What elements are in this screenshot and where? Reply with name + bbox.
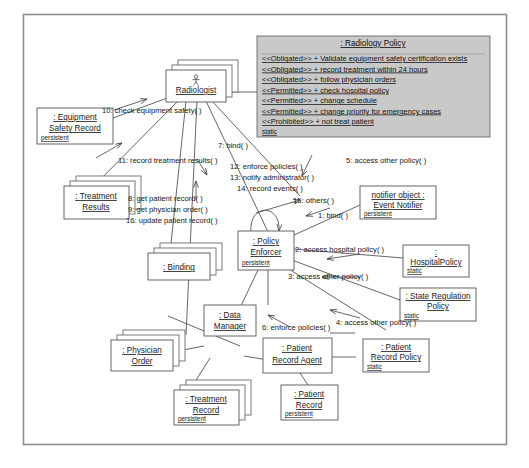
- policy-rule-6: <<Prohibited>> + not treat patient: [262, 117, 375, 126]
- policy-rule-0: <<Obligated>> + Validate equipment safet…: [262, 54, 467, 63]
- message-13: 13: notify administrator( ): [230, 173, 314, 182]
- event-notifier-line2: Event Notifier: [373, 201, 422, 210]
- treatment-record-line2: Record: [193, 406, 220, 415]
- object-state-regulation-policy[interactable]: : State Regulation Policy static: [400, 288, 476, 321]
- policy-rule-2: <<Obligated>> + follow physician orders: [262, 75, 396, 84]
- object-physician-order[interactable]: : Physician Order: [111, 330, 185, 371]
- physician-order-line2: Order: [132, 357, 153, 366]
- radiology-policy-title: : Radiology Policy: [340, 39, 406, 48]
- binding-label: : Binding: [163, 263, 195, 272]
- message-3: 3: access other policy( ): [288, 272, 369, 281]
- policy-rule-4: <<Permitted>> + change schedule: [262, 96, 377, 105]
- message-9: 9: get physician order( ): [128, 205, 208, 214]
- equipment-safety-line2: Safety Record: [49, 124, 101, 133]
- policy-enforcer-meta: persistent: [242, 259, 270, 267]
- uml-collaboration-diagram: : Radiology Policy <<Obligated>> + Valid…: [0, 0, 529, 468]
- treatment-results-line2: Results: [82, 203, 109, 212]
- treatment-results-line1: : Treatment: [75, 192, 117, 201]
- message-11: 11: record treatment results( ): [118, 156, 218, 165]
- message-6: 6: enforce policies( ): [262, 323, 331, 332]
- patient-record-meta: persistent: [285, 410, 313, 418]
- hospital-policy-line1: :: [435, 248, 437, 257]
- object-event-notifier[interactable]: notifier object : Event Notifier persist…: [360, 186, 436, 219]
- physician-order-line1: : Physician: [122, 346, 162, 355]
- event-notifier-meta: persistent: [364, 210, 392, 218]
- hospital-policy-meta: static: [407, 267, 423, 274]
- object-binding[interactable]: : Binding: [148, 243, 222, 280]
- data-manager-line1: : Data: [219, 311, 241, 320]
- radiologist-label: Radiologist: [176, 86, 217, 95]
- patient-record-agent-line1: : Patient: [282, 344, 313, 353]
- state-regulation-line1: : State Regulation: [405, 292, 471, 301]
- patient-record-agent-line2: Record Agent: [272, 356, 322, 365]
- message-7: 7: bind( ): [218, 141, 248, 150]
- policy-rule-5: <<Permitted>> + change priority for emer…: [262, 107, 441, 116]
- hospital-policy-line2: HospitalPolicy: [410, 258, 462, 267]
- message-14: 14: record events( ): [237, 184, 303, 193]
- patient-record-policy-meta: static: [367, 363, 383, 370]
- object-data-manager[interactable]: : Data Manager: [204, 305, 256, 336]
- message-10: 10: check equipment safety( ): [102, 106, 202, 115]
- policy-enforcer-line2: Enforcer: [251, 248, 282, 257]
- object-patient-record-agent[interactable]: : Patient Record Agent: [263, 338, 332, 373]
- treatment-record-meta: persistent: [178, 415, 206, 423]
- patient-record-line2: Record: [296, 401, 323, 410]
- message-12: 12: enforce policies( ): [230, 162, 303, 171]
- policy-rule-1: <<Obligated>> + record treatment within …: [262, 65, 428, 74]
- object-patient-record-policy[interactable]: : Patient Record Policy static: [363, 339, 429, 372]
- event-notifier-line1: notifier object :: [371, 191, 424, 200]
- data-manager-line2: Manager: [214, 322, 247, 331]
- patient-record-policy-line2: Record Policy: [371, 353, 422, 362]
- object-patient-record[interactable]: : Patient Record persistent: [281, 385, 338, 420]
- treatment-record-line1: : Treatment: [185, 395, 227, 404]
- equipment-safety-meta: persistent: [41, 134, 69, 142]
- patient-record-line1: : Patient: [294, 390, 325, 399]
- object-treatment-record[interactable]: : Treatment Record persistent: [174, 380, 251, 425]
- message-15: 15: others( ): [293, 196, 334, 205]
- policy-rule-3: <<Permitted>> + check hospital policy: [262, 86, 389, 95]
- policy-static-meta: static: [262, 128, 278, 135]
- object-policy-enforcer[interactable]: : Policy Enforcer persistent: [238, 231, 294, 270]
- message-2: 2: access hospital policy( ): [295, 245, 385, 254]
- message-1: 1: bind( ): [318, 211, 348, 220]
- object-hospital-policy[interactable]: : HospitalPolicy static: [403, 245, 469, 277]
- state-regulation-line2: Policy: [427, 302, 450, 311]
- message-4: 4: access other policy( ): [336, 318, 417, 327]
- message-5: 5: access other policy( ): [346, 156, 427, 165]
- message-8: 8: get patient record( ): [128, 194, 203, 203]
- message-16: 16: update patient record( ): [126, 216, 218, 225]
- diagram-canvas: : Radiology Policy <<Obligated>> + Valid…: [0, 0, 529, 468]
- patient-record-policy-line1: : Patient: [381, 343, 412, 352]
- radiology-policy-box[interactable]: : Radiology Policy <<Obligated>> + Valid…: [257, 36, 490, 137]
- equipment-safety-line1: : Equipment: [53, 113, 97, 122]
- policy-enforcer-line1: : Policy: [253, 237, 280, 246]
- object-radiologist[interactable]: Radiologist: [166, 60, 238, 102]
